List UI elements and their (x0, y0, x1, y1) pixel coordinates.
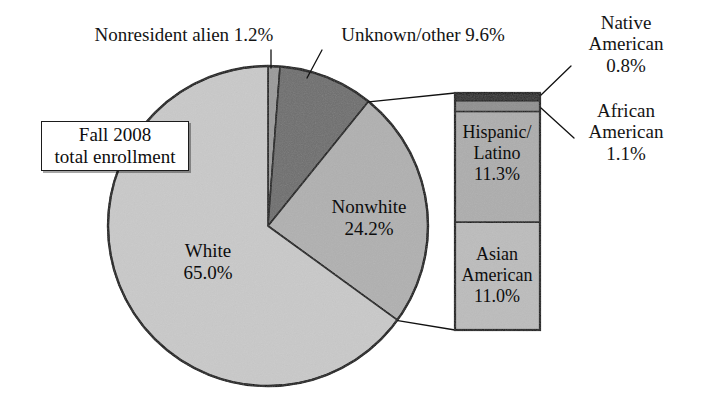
annotation-nonresident-alien: Nonresident alien 1.2% (60, 24, 308, 45)
caption-box: Fall 2008 total enrollment (41, 121, 189, 171)
annotation-african-american: African American 1.1% (556, 100, 696, 164)
enrollment-pie-figure: Nonresident alien 1.2% Unknown/other 9.6… (0, 0, 701, 411)
annotation-native-american: Native American 0.8% (556, 12, 696, 76)
pie-label-white: White 65.0% (152, 240, 264, 283)
bar-segment-african-american[interactable] (455, 101, 540, 112)
pie-label-nonwhite: Nonwhite 24.2% (304, 196, 434, 239)
bar-label-hispanic-latino: Hispanic/ Latino 11.3% (452, 122, 542, 185)
bar-segment-native-american[interactable] (455, 93, 540, 101)
leader-line-bottom (398, 321, 455, 330)
annotation-unknown-other: Unknown/other 9.6% (318, 24, 528, 45)
bar-label-asian-american: Asian American 11.0% (452, 244, 542, 307)
leader-line-top (369, 93, 455, 102)
